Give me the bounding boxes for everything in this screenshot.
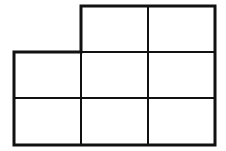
grid-cell xyxy=(81,52,148,98)
grid-cell xyxy=(148,6,215,52)
grid-cell xyxy=(14,98,81,145)
grid-cell xyxy=(14,52,81,98)
grid-cell xyxy=(81,98,148,145)
grid-cell xyxy=(148,52,215,98)
inner-grid-lines xyxy=(14,6,215,145)
outer-outline xyxy=(14,6,215,145)
grid-cell xyxy=(148,98,215,145)
grid-cell xyxy=(81,6,148,52)
l-shaped-grid-diagram xyxy=(0,0,226,151)
